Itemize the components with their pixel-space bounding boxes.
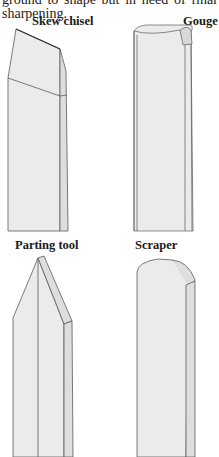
skew-chisel-illustration (8, 29, 68, 231)
parting-tool-illustration (13, 256, 73, 457)
gouge-illustration (134, 25, 193, 231)
scraper-illustration (137, 259, 195, 457)
tool-illustrations (0, 0, 219, 457)
